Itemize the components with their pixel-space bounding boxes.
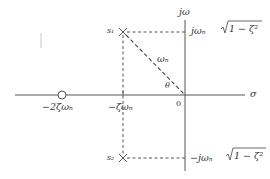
pole-s2-cross-icon xyxy=(119,154,127,162)
jomega-axis-label: jω xyxy=(179,7,190,17)
radius-dashed xyxy=(126,35,185,95)
origin-label: 0 xyxy=(176,100,181,108)
upper-imag-prefix: jωₙ xyxy=(191,26,206,36)
pole-s1-cross-icon xyxy=(119,28,127,36)
angle-label: θ xyxy=(165,82,170,90)
zero-circle-icon xyxy=(58,91,66,99)
sigma-axis-label: σ xyxy=(250,89,257,99)
pole-s1-label: s₁ xyxy=(107,27,114,35)
upper-imag-radicand: 1 − ζ² xyxy=(229,24,258,34)
pole-s2-label: s₂ xyxy=(107,154,114,162)
lower-imag-radicand: 1 − ζ² xyxy=(234,151,263,161)
lower-imag-prefix: −jωₙ xyxy=(190,153,213,163)
zero-location-label: −2ζωₙ xyxy=(42,102,73,112)
real-part-label: −ζωₙ xyxy=(108,102,133,112)
radius-label: ωₙ xyxy=(157,54,169,64)
s-plane-diagram: jω σ 0 s₁ s₂ jωₙ 1 − ζ² −jωₙ 1 − ζ² ωₙ θ… xyxy=(0,0,270,179)
